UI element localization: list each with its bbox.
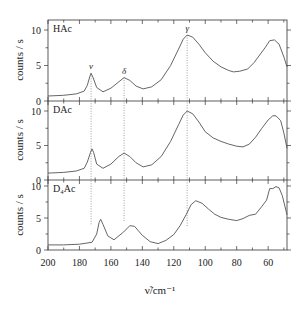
- y-tick-label: 5: [36, 60, 41, 71]
- y-tick-label: 10: [31, 25, 41, 36]
- spectra-chart: 0510HAc0510DAc0510D₄Ac200180160140120100…: [0, 0, 307, 310]
- y-tick-label: 10: [31, 106, 41, 117]
- panel-label: D₄Ac: [53, 183, 76, 194]
- x-tick-label: 180: [72, 257, 87, 268]
- spectrum-curve: [48, 35, 287, 96]
- peak-label: ν: [89, 61, 93, 71]
- x-tick-label: 160: [103, 257, 118, 268]
- x-tick-label: 100: [198, 257, 213, 268]
- x-tick-label: 80: [232, 257, 242, 268]
- y-axis-title: counts / s: [13, 119, 25, 161]
- y-axis-title: counts / s: [13, 39, 25, 81]
- text-labels: 0510HAc0510DAc0510D₄Ac200180160140120100…: [31, 23, 273, 268]
- y-axis-title: counts / s: [13, 194, 25, 236]
- panel-label: DAc: [53, 104, 72, 115]
- spectrum-curve: [48, 187, 287, 245]
- x-axis-title: ν̃/cm⁻¹: [145, 284, 176, 296]
- x-tick-label: 60: [263, 257, 273, 268]
- y-tick-label: 10: [31, 181, 41, 192]
- x-tick-label: 120: [166, 257, 181, 268]
- spectrum-curves: [48, 35, 287, 245]
- y-tick-label: 5: [36, 213, 41, 224]
- panel-label: HAc: [53, 23, 72, 34]
- peak-guide-lines: [91, 35, 187, 228]
- peak-label: δ: [122, 66, 127, 76]
- peak-label: γ: [185, 23, 189, 33]
- spectrum-curve: [48, 111, 287, 173]
- y-tick-label: 0: [36, 245, 41, 256]
- axis-ticks: [44, 20, 291, 250]
- y-tick-label: 5: [36, 140, 41, 151]
- x-tick-label: 140: [135, 257, 150, 268]
- x-tick-label: 200: [41, 257, 56, 268]
